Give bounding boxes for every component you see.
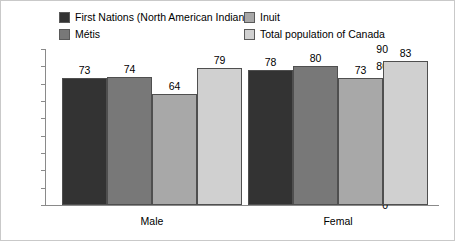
y-tick-mark bbox=[41, 153, 45, 154]
legend-swatch-total-population bbox=[244, 29, 255, 40]
y-tick-label: 90 bbox=[358, 43, 388, 55]
legend-swatch-first-nations bbox=[59, 12, 70, 23]
y-tick-mark bbox=[41, 49, 45, 50]
y-tick-mark bbox=[41, 101, 45, 102]
x-category-label: Femal bbox=[323, 215, 352, 227]
bar bbox=[62, 78, 107, 205]
legend-item-first-nations: First Nations (North American Indian) bbox=[59, 12, 244, 23]
bar-value-label: 80 bbox=[310, 52, 322, 64]
y-tick-mark bbox=[41, 205, 45, 206]
y-axis-line bbox=[45, 49, 46, 205]
legend-item-metis: Métis bbox=[59, 29, 244, 40]
bar bbox=[383, 61, 428, 205]
y-tick-mark bbox=[41, 84, 45, 85]
bar-value-label: 78 bbox=[265, 56, 277, 68]
bar bbox=[248, 70, 293, 205]
y-tick-mark bbox=[41, 118, 45, 119]
legend-label-first-nations: First Nations (North American Indian) bbox=[75, 12, 248, 23]
bar-value-label: 64 bbox=[169, 80, 181, 92]
legend-label-metis: Métis bbox=[75, 29, 100, 40]
legend-label-inuit: Inuit bbox=[260, 12, 280, 23]
bar bbox=[197, 68, 242, 205]
y-tick-mark bbox=[41, 66, 45, 67]
legend-swatch-metis bbox=[59, 29, 70, 40]
bar-value-label: 73 bbox=[355, 64, 367, 76]
y-tick-mark bbox=[41, 136, 45, 137]
bar-chart-figure: First Nations (North American Indian) In… bbox=[0, 0, 455, 241]
bar-value-label: 83 bbox=[400, 47, 412, 59]
legend-label-total-population: Total population of Canada bbox=[260, 29, 385, 40]
bar-value-label: 79 bbox=[214, 54, 226, 66]
bar bbox=[152, 94, 197, 205]
y-tick-mark bbox=[41, 188, 45, 189]
bar bbox=[293, 66, 338, 205]
x-category-label: Male bbox=[141, 215, 164, 227]
bar-value-label: 74 bbox=[124, 63, 136, 75]
chart-legend: First Nations (North American Indian) In… bbox=[59, 9, 439, 43]
legend-item-total-population: Total population of Canada bbox=[244, 29, 439, 40]
y-tick-mark bbox=[41, 170, 45, 171]
legend-swatch-inuit bbox=[244, 12, 255, 23]
bar-value-label: 73 bbox=[79, 64, 91, 76]
bar bbox=[107, 77, 152, 205]
legend-item-inuit: Inuit bbox=[244, 12, 439, 23]
plot-area: 9080706050403020100 7374647978807383 bbox=[45, 49, 439, 205]
bar bbox=[338, 78, 383, 205]
